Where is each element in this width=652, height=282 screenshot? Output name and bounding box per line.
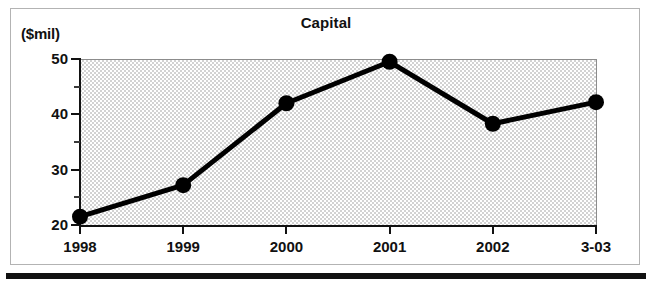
y-tick-major (71, 224, 80, 226)
section-divider-rule (6, 273, 646, 279)
y-tick-label: 20 (6, 216, 68, 233)
y-tick-major (71, 169, 80, 171)
x-tick-label: 2002 (438, 238, 548, 255)
x-tick-label: 1998 (25, 238, 135, 255)
x-tick-label: 3-03 (541, 238, 651, 255)
y-tick-label: 30 (6, 161, 68, 178)
y-tick-minor (74, 196, 80, 198)
y-tick-label: 50 (6, 50, 68, 67)
x-tick (79, 227, 81, 234)
y-tick-label: 40 (6, 105, 68, 122)
x-axis-line (79, 225, 597, 227)
y-tick-major (71, 58, 80, 60)
x-tick (182, 227, 184, 234)
x-tick (492, 227, 494, 234)
x-tick-label: 2000 (231, 238, 341, 255)
x-tick (595, 227, 597, 234)
chart-title: Capital (0, 14, 652, 31)
plot-area (80, 59, 597, 226)
x-tick-label: 1999 (128, 238, 238, 255)
x-tick-label: 2001 (335, 238, 445, 255)
y-tick-minor (74, 86, 80, 88)
x-tick (389, 227, 391, 234)
y-tick-minor (74, 141, 80, 143)
y-tick-major (71, 113, 80, 115)
x-tick (285, 227, 287, 234)
